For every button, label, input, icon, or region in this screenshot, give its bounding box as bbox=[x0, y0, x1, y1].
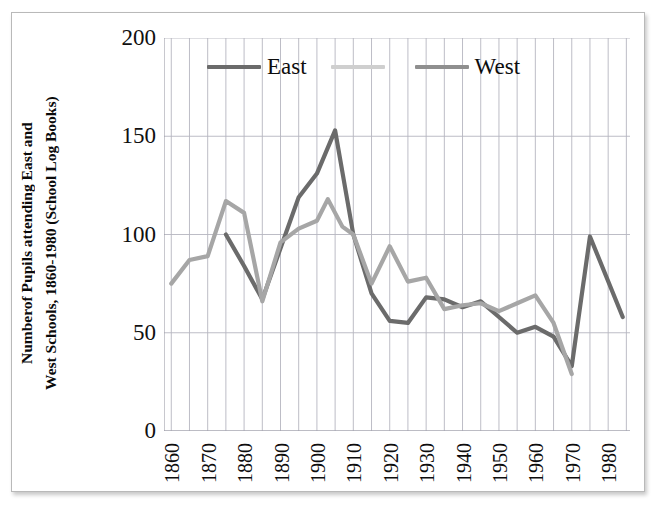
x-tick-label: 1860 bbox=[161, 434, 181, 492]
x-tick-label: 1940 bbox=[453, 434, 473, 492]
x-tick-label: 1890 bbox=[271, 434, 291, 492]
legend-label: West bbox=[475, 55, 520, 78]
x-tick-label: 1950 bbox=[489, 434, 509, 492]
x-axis-tick-labels: 1860187018801890190019101920193019401950… bbox=[164, 434, 630, 494]
y-axis-tick-labels: 200150100500 bbox=[100, 13, 156, 493]
legend-swatch-icon bbox=[331, 65, 385, 69]
horizontal-gridlines bbox=[164, 38, 630, 431]
y-axis-title: Numberof Pupils attending East and West … bbox=[14, 13, 66, 473]
y-tick-label: 100 bbox=[100, 223, 156, 246]
legend-swatch-icon bbox=[207, 65, 261, 69]
chart-frame: Numberof Pupils attending East and West … bbox=[11, 12, 645, 492]
x-tick-label: 1930 bbox=[416, 434, 436, 492]
legend-label: East bbox=[267, 55, 307, 78]
x-tick-label: 1870 bbox=[198, 434, 218, 492]
y-axis-title-line-2: West Schools, 1860-1980 (School Log Book… bbox=[38, 13, 64, 473]
x-tick-label: 1920 bbox=[380, 434, 400, 492]
legend-entry: West bbox=[415, 55, 520, 78]
chart-legend: EastWest bbox=[207, 55, 544, 78]
x-tick-label: 1910 bbox=[343, 434, 363, 492]
x-tick-label: 1880 bbox=[234, 434, 254, 492]
legend-entry bbox=[331, 65, 391, 69]
x-tick-label: 1970 bbox=[562, 434, 582, 492]
x-tick-label: 1900 bbox=[307, 434, 327, 492]
x-tick-label: 1960 bbox=[525, 434, 545, 492]
y-tick-label: 50 bbox=[100, 321, 156, 344]
x-tick-label: 1980 bbox=[598, 434, 618, 492]
legend-entry: East bbox=[207, 55, 307, 78]
plot-svg bbox=[164, 38, 630, 431]
y-axis-title-line-1: Numberof Pupils attending East and bbox=[14, 13, 40, 473]
series-lines bbox=[171, 130, 622, 374]
y-tick-label: 200 bbox=[100, 26, 156, 49]
y-tick-label: 150 bbox=[100, 124, 156, 147]
series-line-east bbox=[226, 130, 623, 366]
plot-area bbox=[164, 38, 630, 431]
y-tick-label: 0 bbox=[100, 419, 156, 442]
legend-swatch-icon bbox=[415, 65, 469, 69]
